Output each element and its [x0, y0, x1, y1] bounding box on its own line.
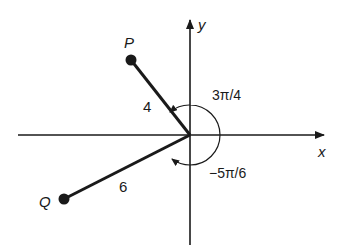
point-q-dot — [59, 194, 70, 205]
angle-label-3pi4: 3π/4 — [212, 87, 241, 103]
x-axis-label: x — [317, 143, 326, 160]
segment-op — [131, 60, 190, 135]
angle-label-neg5pi6: −5π/6 — [209, 165, 247, 181]
point-q-label: Q — [39, 193, 51, 210]
point-p-dot — [126, 55, 137, 66]
length-label-p: 4 — [143, 98, 151, 115]
length-label-q: 6 — [119, 178, 127, 195]
point-p-label: P — [124, 34, 134, 51]
y-axis-label: y — [197, 16, 207, 33]
polar-coordinates-diagram: x y P 4 Q 6 3π/4 −5π/6 — [0, 0, 341, 250]
